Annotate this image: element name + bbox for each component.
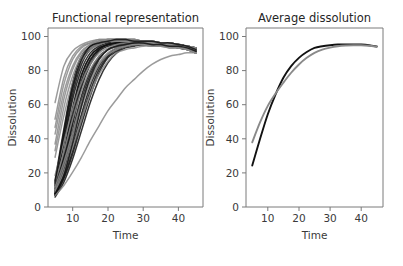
panel-title-right: Average dissolution [258,11,371,25]
y-tick-right-80: 80 [226,64,239,76]
y-tick-left-80: 80 [28,64,41,76]
dissolution-figure: Functional representation 0 20 40 60 80 … [0,0,403,266]
panel-title-left: Functional representation [52,11,199,25]
x-tick-right-10: 10 [261,212,274,224]
y-axis-label-right: Dissolution [204,88,216,146]
y-tick-right-20: 20 [226,167,239,179]
y-tick-right-0: 0 [232,201,239,213]
x-tick-right-20: 20 [292,212,305,224]
y-tick-left-60: 60 [28,98,41,110]
x-axis-label-right: Time [301,229,328,241]
y-tick-right-40: 40 [226,133,239,145]
y-tick-right-100: 100 [219,30,239,42]
x-tick-left-30: 30 [137,212,150,224]
y-tick-left-20: 20 [28,167,41,179]
x-tick-left-10: 10 [66,212,79,224]
x-axis-label-left: Time [112,229,139,241]
x-tick-right-30: 30 [323,212,336,224]
x-tick-right-40: 40 [355,212,368,224]
y-tick-left-0: 0 [34,201,41,213]
y-tick-left-100: 100 [21,30,41,42]
y-axis-label-left: Dissolution [6,88,18,146]
x-tick-left-20: 20 [101,212,114,224]
y-tick-right-60: 60 [226,98,239,110]
x-tick-left-40: 40 [172,212,185,224]
y-tick-left-40: 40 [28,133,41,145]
